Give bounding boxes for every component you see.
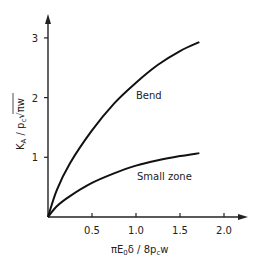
chart: 123 0.51.01.52.0 Bend Small zone πE0δ / …	[0, 0, 259, 269]
bend-label: Bend	[136, 90, 162, 101]
x-axis-arrow-icon	[238, 214, 248, 220]
y-ticks: 123	[32, 33, 48, 163]
x-tick-label: 1.0	[128, 225, 144, 236]
x-axis-label: πE0δ / 8pcw	[111, 244, 168, 257]
x-tick-label: 2.0	[216, 225, 232, 236]
y-tick-label: 1	[32, 152, 38, 163]
y-axis-arrow-icon	[45, 14, 51, 24]
y-axis-label: KA / pc√πw	[15, 98, 28, 150]
bend-curve	[48, 42, 199, 217]
y-tick-label: 3	[32, 33, 38, 44]
x-tick-label: 0.5	[84, 225, 100, 236]
x-tick-label: 1.5	[172, 225, 188, 236]
axes	[48, 18, 244, 217]
small-zone-label: Small zone	[137, 171, 192, 182]
y-tick-label: 2	[32, 93, 38, 104]
